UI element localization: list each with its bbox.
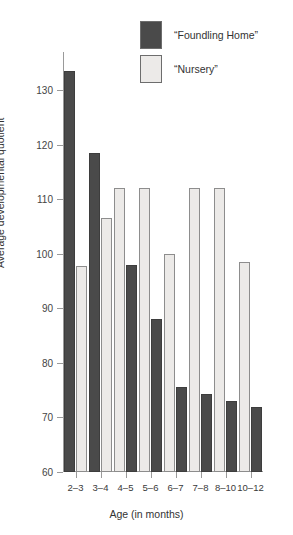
x-axis-tick-label: 10–12 <box>237 482 263 493</box>
y-axis-tick <box>57 254 63 255</box>
x-axis-tick <box>101 472 102 478</box>
bar-nursery <box>239 262 251 472</box>
y-axis-tick-label: 100 <box>25 248 53 259</box>
bar-foundling-home <box>201 394 213 472</box>
x-axis-tick <box>126 472 127 478</box>
x-axis-title: Age (in months) <box>0 508 293 520</box>
bar-nursery <box>114 188 126 472</box>
chart-container: “Foundling Home” “Nursery” 6070809010011… <box>0 0 293 535</box>
x-axis-tick-label: 7–8 <box>193 482 209 493</box>
legend-item-foundling-home: “Foundling Home” <box>140 18 258 52</box>
plot-area: 607080901001101201302–33–44–55–66–77–88–… <box>63 52 263 472</box>
bar-foundling-home <box>226 401 238 472</box>
bar-foundling-home <box>151 319 163 472</box>
bar-foundling-home <box>126 265 138 472</box>
bar-nursery <box>76 266 88 472</box>
x-axis-tick-label: 8–10 <box>215 482 236 493</box>
y-axis-tick-label: 60 <box>25 467 53 478</box>
x-axis-tick <box>76 472 77 478</box>
y-axis-tick <box>57 90 63 91</box>
y-axis-tick <box>57 363 63 364</box>
y-axis-tick-label: 70 <box>25 412 53 423</box>
bar-foundling-home <box>176 387 188 472</box>
y-axis-tick-label: 110 <box>25 194 53 205</box>
x-axis-tick <box>176 472 177 478</box>
y-axis-title: Average developmental quotient <box>0 118 6 268</box>
bar-nursery <box>214 188 226 472</box>
bar-foundling-home <box>89 153 101 472</box>
x-axis-tick <box>151 472 152 478</box>
x-axis-tick-label: 4–5 <box>118 482 134 493</box>
bar-nursery <box>164 254 176 472</box>
y-axis-tick <box>57 199 63 200</box>
x-axis-tick <box>201 472 202 478</box>
y-axis-tick-label: 120 <box>25 139 53 150</box>
y-axis-tick <box>57 145 63 146</box>
x-axis-tick <box>251 472 252 478</box>
y-axis-tick-label: 130 <box>25 85 53 96</box>
x-axis-tick-label: 5–6 <box>143 482 159 493</box>
y-axis-tick-label: 90 <box>25 303 53 314</box>
x-axis-tick <box>226 472 227 478</box>
bar-nursery <box>189 188 201 472</box>
y-axis-tick-label: 80 <box>25 357 53 368</box>
x-axis-tick-label: 2–3 <box>68 482 84 493</box>
x-axis-tick-label: 6–7 <box>168 482 184 493</box>
y-axis-tick <box>57 472 63 473</box>
legend-label-foundling-home: “Foundling Home” <box>174 29 258 41</box>
bar-nursery <box>139 188 151 472</box>
bar-nursery <box>101 218 113 472</box>
x-axis-tick-label: 3–4 <box>93 482 109 493</box>
bar-foundling-home <box>64 71 76 472</box>
y-axis-tick <box>57 417 63 418</box>
legend-swatch-dark-icon <box>140 21 162 49</box>
y-axis-tick <box>57 308 63 309</box>
bar-foundling-home <box>251 407 263 472</box>
